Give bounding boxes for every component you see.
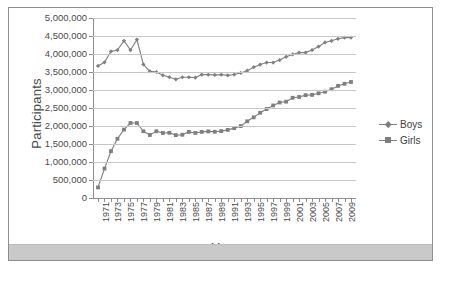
series-line: [98, 82, 351, 187]
x-tick-label: 1975: [127, 202, 136, 222]
data-point-marker: [109, 149, 113, 153]
legend-marker-diamond-icon: [379, 119, 397, 129]
chart-panel: Participants 0500,0001,000,0001,500,0002…: [8, 7, 433, 261]
data-point-marker: [329, 39, 333, 43]
data-point-marker: [206, 130, 210, 134]
data-point-marker: [96, 186, 100, 190]
y-tick-mark: [89, 18, 93, 19]
data-point-marker: [206, 73, 210, 77]
data-point-marker: [116, 137, 120, 141]
x-axis-line: [93, 198, 356, 199]
data-point-marker: [304, 93, 308, 97]
data-point-marker: [265, 60, 269, 64]
data-point-marker: [278, 101, 282, 105]
data-point-marker: [219, 73, 223, 77]
x-tick-label: 2007: [335, 202, 344, 222]
data-point-marker: [161, 73, 165, 77]
x-tick-label: 2009: [348, 202, 357, 222]
series-line: [98, 38, 351, 80]
x-tick-label: 2003: [309, 202, 318, 222]
gridline: [93, 108, 356, 109]
data-point-marker: [174, 77, 178, 81]
y-tick-label: 1,000,000: [45, 157, 87, 167]
data-point-marker: [187, 75, 191, 79]
y-tick-label: 2,500,000: [45, 103, 87, 113]
data-point-marker: [252, 65, 256, 69]
data-point-marker: [226, 128, 230, 132]
gridline: [93, 162, 356, 163]
y-tick-mark: [89, 54, 93, 55]
chart-legend: BoysGirls: [379, 116, 433, 148]
data-point-marker: [297, 95, 301, 99]
x-tick-label: 1987: [205, 202, 214, 222]
y-tick-label: 4,000,000: [45, 49, 87, 59]
y-tick-mark: [89, 198, 93, 199]
x-tick-label: 1989: [218, 202, 227, 222]
y-tick-label: 5,000,000: [45, 13, 87, 23]
legend-label: Boys: [400, 119, 422, 130]
x-axis-tick-labels: 1971197319751977197919811983198519871989…: [93, 202, 356, 242]
data-point-marker: [252, 115, 256, 119]
gridline: [93, 72, 356, 73]
gridline: [93, 144, 356, 145]
legend-item-boys[interactable]: Boys: [379, 116, 433, 132]
y-tick-mark: [89, 162, 93, 163]
data-point-marker: [232, 72, 236, 76]
data-point-marker: [129, 121, 133, 125]
x-tick-label: 1979: [153, 202, 162, 222]
legend-marker-square-icon: [379, 135, 397, 145]
data-point-marker: [310, 48, 314, 52]
data-point-marker: [271, 60, 275, 64]
data-point-marker: [200, 72, 204, 76]
data-point-marker: [154, 129, 158, 133]
plot-area: [93, 18, 356, 198]
gridline: [93, 36, 356, 37]
x-tick-label: 1995: [257, 202, 266, 222]
y-tick-mark: [89, 36, 93, 37]
x-tick-label: 1977: [140, 202, 149, 222]
series-girls: [96, 80, 353, 189]
x-tick-label: 1981: [166, 202, 175, 222]
x-tick-label: 1985: [192, 202, 201, 222]
data-point-marker: [135, 121, 139, 125]
x-tick-label: 2001: [296, 202, 305, 222]
data-point-marker: [180, 75, 184, 79]
gridline: [93, 54, 356, 55]
x-tick-label: 2005: [322, 202, 331, 222]
y-tick-mark: [89, 126, 93, 127]
series-boys: [96, 35, 353, 81]
gridline: [93, 90, 356, 91]
data-point-marker: [122, 128, 126, 132]
panel-bottom-band: [9, 244, 432, 260]
data-point-marker: [278, 58, 282, 62]
data-point-marker: [258, 62, 262, 66]
data-point-marker: [245, 119, 249, 123]
y-tick-mark: [89, 90, 93, 91]
data-point-marker: [103, 167, 107, 171]
x-tick-label: 1973: [114, 202, 123, 222]
data-point-marker: [193, 75, 197, 79]
x-tick-label: 1993: [244, 202, 253, 222]
data-point-marker: [336, 37, 340, 41]
y-tick-label: 3,000,000: [45, 85, 87, 95]
data-point-marker: [142, 129, 146, 133]
data-point-marker: [219, 129, 223, 133]
data-point-marker: [343, 82, 347, 86]
y-tick-label: 2,000,000: [45, 121, 87, 131]
legend-item-girls[interactable]: Girls: [379, 132, 433, 148]
data-point-marker: [161, 131, 165, 135]
y-tick-label: 3,500,000: [45, 67, 87, 77]
data-point-marker: [226, 73, 230, 77]
y-tick-label: 0: [82, 193, 87, 203]
y-tick-mark: [89, 180, 93, 181]
y-tick-label: 500,000: [53, 175, 87, 185]
x-tick-label: 1971: [102, 202, 111, 222]
data-point-marker: [174, 133, 178, 137]
y-tick-mark: [89, 144, 93, 145]
gridline: [93, 180, 356, 181]
data-point-marker: [291, 96, 295, 100]
data-point-marker: [336, 84, 340, 88]
x-tick-label: 1991: [231, 202, 240, 222]
data-point-marker: [213, 73, 217, 77]
x-tick-label: 1997: [270, 202, 279, 222]
